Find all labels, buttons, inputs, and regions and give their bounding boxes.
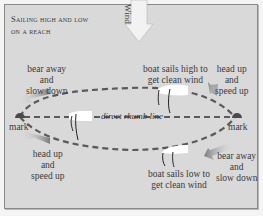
label-line: speed up — [31, 171, 65, 182]
boat-high-icon — [158, 85, 188, 113]
label-top-right: head up and speed up — [215, 64, 249, 97]
label-line: head up — [215, 64, 249, 75]
rhumb-line-label: direct rhumb line — [101, 111, 163, 121]
label-bottom-left: head up and speed up — [31, 149, 65, 182]
wind-label: Wind — [123, 4, 133, 24]
label-line: and — [216, 162, 257, 173]
label-line: speed up — [215, 86, 249, 97]
label-line: get clean wind — [148, 180, 210, 191]
label-line: slow down — [216, 173, 257, 184]
label-line: bear away — [216, 151, 257, 162]
boat-rhumb-icon — [69, 111, 92, 140]
label-line: and — [215, 75, 249, 86]
label-top-left: bear away and slow down — [26, 64, 67, 97]
label-bottom-center: boat sails low to get clean wind — [148, 169, 210, 191]
left-mark-label: mark — [9, 122, 29, 132]
label-line: slow down — [26, 86, 67, 97]
right-mark-label: mark — [228, 122, 248, 132]
label-line: bear away — [26, 64, 67, 75]
label-line: head up — [31, 149, 65, 160]
label-line: and — [26, 75, 67, 86]
label-line: boat sails high to — [143, 64, 208, 75]
label-bottom-right: bear away and slow down — [216, 151, 257, 184]
label-line: boat sails low to — [148, 169, 210, 180]
right-mark-icon — [232, 113, 242, 118]
label-top-center: boat sails high to get clean wind — [143, 64, 208, 86]
label-line: get clean wind — [143, 75, 208, 86]
left-mark-icon — [15, 113, 25, 118]
label-line: and — [31, 160, 65, 171]
